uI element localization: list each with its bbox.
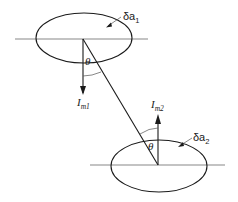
normal-2-arrowhead [155, 114, 161, 124]
normal-2-label: Im2 [150, 98, 164, 113]
normal-1-label-sub: m1 [81, 102, 90, 111]
connecting-line [83, 39, 158, 165]
angle-2-arc [140, 128, 158, 134]
area-2-label: δa2 [193, 131, 209, 146]
area-1-pointer-head [106, 23, 112, 28]
angle-1-label: θ [85, 55, 91, 67]
normal-1-label: Im1 [76, 96, 90, 111]
area-1-label: δa1 [123, 10, 139, 25]
radiation-exchange-diagram: θ Im1 δa1 θ Im2 δa2 [0, 0, 238, 202]
svg-text:Im1: Im1 [76, 96, 90, 111]
normal-2-label-sub: m2 [155, 104, 164, 113]
surface-2: θ Im2 δa2 [90, 98, 225, 192]
area-1-label-sub: 1 [135, 16, 139, 25]
svg-text:Im2: Im2 [150, 98, 164, 113]
surface-1: θ Im1 δa1 [15, 10, 148, 111]
area-2-label-main: δa [193, 131, 206, 143]
area-1-label-main: δa [123, 10, 136, 22]
angle-2-label: θ [148, 140, 154, 152]
surface-1-ellipse [36, 13, 132, 63]
area-2-label-sub: 2 [205, 137, 209, 146]
surface-2-ellipse [111, 140, 207, 192]
normal-1-arrowhead [80, 86, 86, 95]
angle-1-arc [83, 72, 101, 76]
